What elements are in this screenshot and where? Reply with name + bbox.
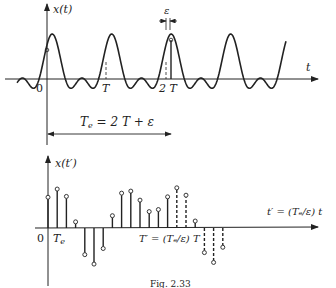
- top-plot: ε Te = 2 T + ε x(t) t 0 T 2 T: [5, 3, 318, 145]
- stem-marker: [212, 260, 216, 264]
- stem-marker: [184, 193, 188, 197]
- stem-marker: [147, 210, 151, 214]
- stem-marker: [74, 220, 78, 224]
- stem-marker: [129, 189, 133, 193]
- Te-span-label: Te = 2 T + ε: [80, 115, 154, 130]
- tick-Tprime-label: T′ = (Tₑ/ε) T: [139, 233, 201, 244]
- top-y-label: x(t): [53, 3, 72, 16]
- bottom-origin-label: 0: [37, 232, 44, 245]
- stem-marker: [221, 245, 225, 249]
- tick-2T-label: 2 T: [158, 82, 178, 95]
- tick-Te-label: Te: [53, 232, 65, 246]
- stem-marker: [110, 214, 114, 218]
- waveform-xt: [17, 34, 286, 88]
- stem-marker: [101, 247, 105, 251]
- stem-marker: [193, 219, 197, 223]
- top-x-label: t: [306, 61, 311, 74]
- stem-marker: [156, 208, 160, 212]
- stem-marker: [175, 186, 179, 190]
- stem-marker: [46, 195, 50, 199]
- tick-T-label: T: [102, 82, 111, 95]
- stem-samples: [46, 186, 225, 266]
- stem-marker: [83, 253, 87, 257]
- bottom-y-label: x(t′): [55, 157, 77, 170]
- bottom-x-label: t′ = (Tₑ/ε) t: [267, 206, 323, 217]
- stem-marker: [55, 187, 59, 191]
- bottom-plot: x(t′) t′ = (Tₑ/ε) t 0 Te T′ = (Tₑ/ε) T: [35, 156, 323, 286]
- stem-marker: [166, 195, 170, 199]
- stem-marker: [120, 191, 124, 195]
- figure-caption: Fig. 2.33: [150, 279, 191, 288]
- top-origin-label: 0: [36, 82, 43, 95]
- figure-canvas: ε Te = 2 T + ε x(t) t 0 T 2 T x(t′) t′ =…: [0, 0, 336, 288]
- stem-marker: [202, 251, 206, 255]
- epsilon-label: ε: [164, 5, 169, 16]
- stem-marker: [64, 194, 68, 198]
- stem-marker: [92, 262, 96, 266]
- stem-marker: [138, 198, 142, 202]
